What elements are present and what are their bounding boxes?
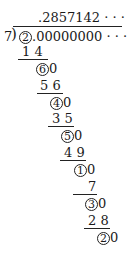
subtract-value: 5 6 (40, 79, 61, 92)
quotient: .2857142 · · · (38, 11, 125, 24)
subtract-line (73, 194, 97, 195)
subtract-value: 4 9 (64, 146, 85, 159)
subtract-value: 2 8 (88, 214, 109, 227)
circled-remainder-icon: 5 (61, 130, 74, 143)
remainder-row: 40 (50, 96, 71, 110)
circled-remainder-icon: 2 (97, 232, 110, 245)
circled-remainder-icon: 2 (19, 31, 32, 44)
circled-remainder-icon: 6 (36, 63, 49, 76)
remainder-row: 30 (85, 197, 106, 211)
dividend: 2.00000000 · · · (19, 30, 127, 44)
subtract-line (60, 160, 86, 161)
subtract-line (84, 228, 110, 229)
remainder-row: 10 (74, 163, 95, 177)
dividend-rest: .00000000 · · · (32, 30, 127, 43)
division-bracket: ) (11, 28, 17, 41)
subtract-value: 7 (88, 180, 96, 193)
remainder-row: 50 (61, 129, 82, 143)
subtract-value: 3 5 (52, 112, 73, 125)
subtract-value: 1 4 (22, 45, 43, 58)
division-bar (13, 26, 122, 27)
remainder-row: 20 (97, 231, 118, 245)
subtract-line (18, 59, 48, 60)
circled-remainder-icon: 1 (74, 164, 87, 177)
subtract-line (37, 93, 63, 94)
subtract-line (48, 126, 74, 127)
remainder-row: 60 (36, 62, 57, 76)
circled-remainder-icon: 3 (85, 198, 98, 211)
circled-remainder-icon: 4 (50, 97, 63, 110)
